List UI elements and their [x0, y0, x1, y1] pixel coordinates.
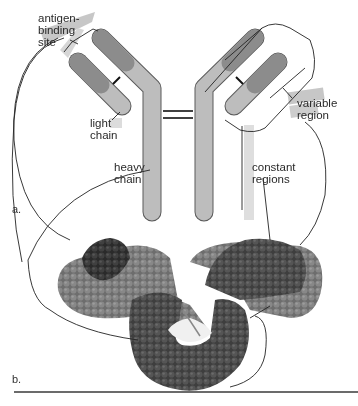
label-antigen-binding-site: antigen- binding site: [38, 12, 80, 48]
label-heavy-chain: heavy chain: [114, 161, 145, 185]
space-filling-model: [58, 238, 323, 391]
panel-label-b: b.: [12, 373, 21, 385]
label-constant-regions: constant regions: [252, 161, 295, 185]
label-variable-region: variable region: [297, 97, 337, 121]
highlight-marks: [40, 12, 325, 220]
label-light-chain: light chain: [90, 117, 118, 141]
antibody-figure: [0, 0, 358, 406]
panel-label-a: a.: [12, 203, 21, 215]
